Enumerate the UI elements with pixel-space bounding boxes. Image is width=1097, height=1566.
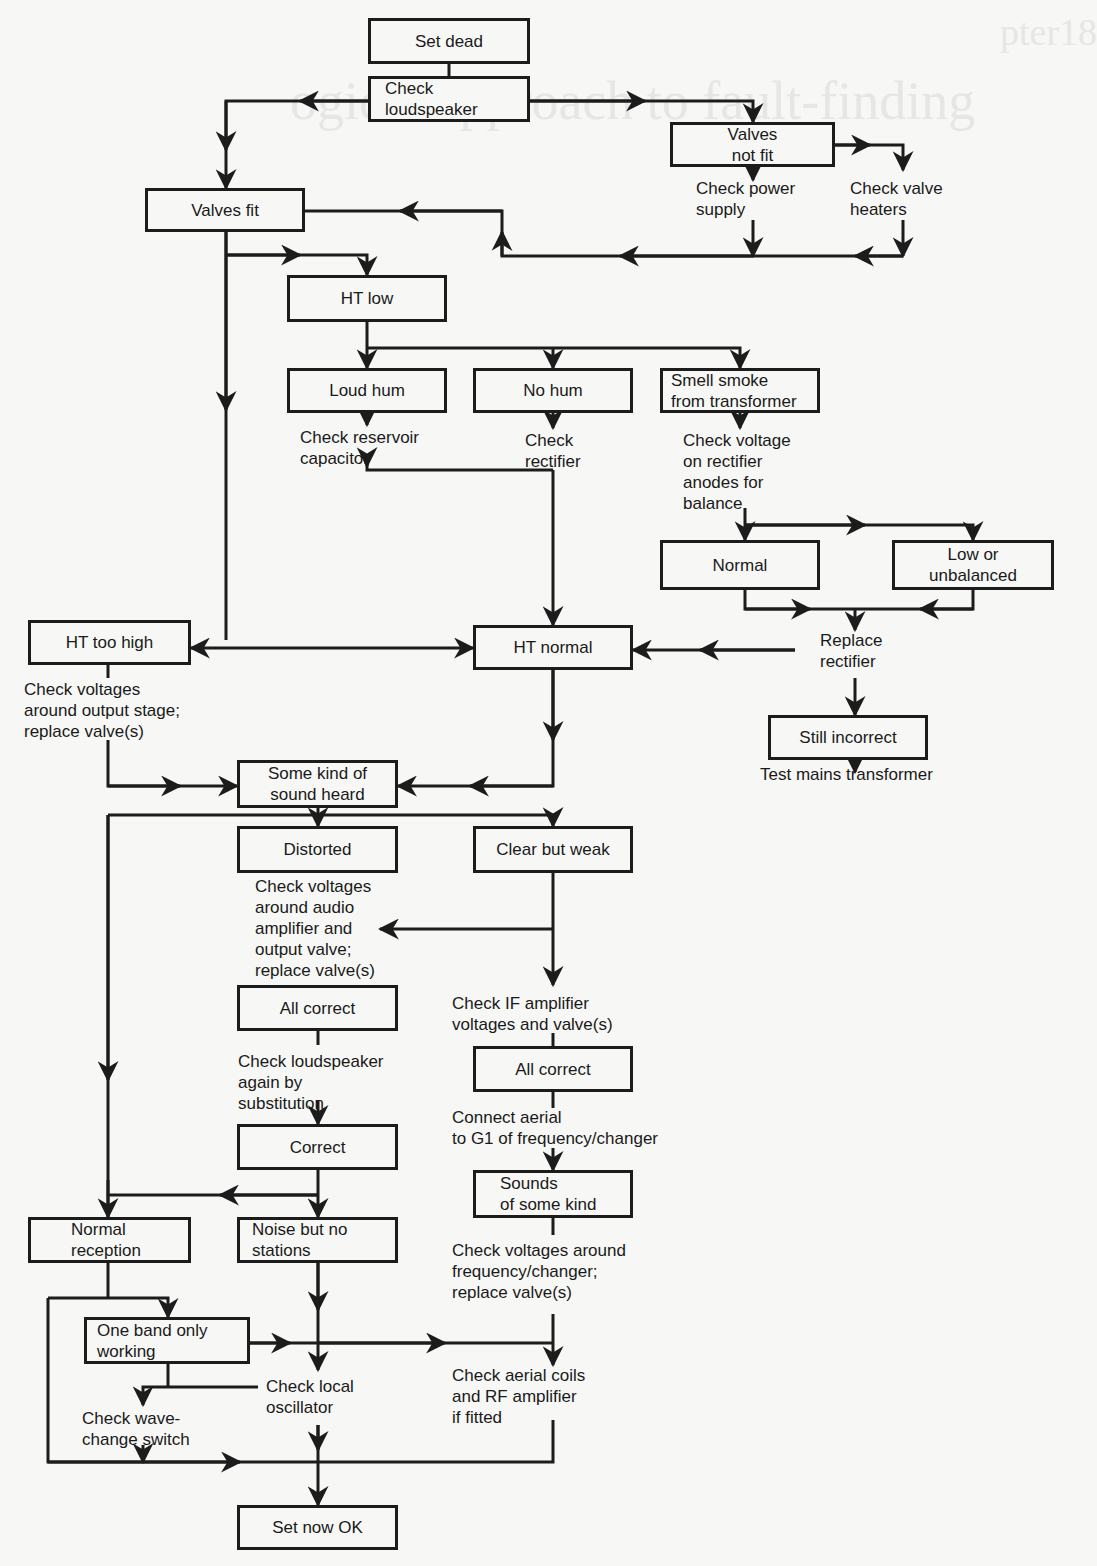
node-sounds-of-some-kind: Sounds of some kind (473, 1170, 633, 1218)
node-loud-hum: Loud hum (287, 368, 447, 413)
note-check-aerial-coils: Check aerial coils and RF amplifier if f… (452, 1365, 585, 1428)
node-correct: Correct (237, 1124, 398, 1170)
node-normal: Normal (660, 540, 820, 590)
node-normal-reception: Normal reception (28, 1217, 191, 1263)
node-one-band-only: One band only working (84, 1317, 250, 1364)
node-valves-not-fit: Valves not fit (670, 122, 835, 167)
node-set-dead: Set dead (368, 18, 530, 64)
note-replace-rectifier: Replace rectifier (820, 630, 882, 672)
node-all-correct-right: All correct (473, 1046, 633, 1092)
node-set-now-ok: Set now OK (237, 1505, 398, 1550)
note-check-output-stage: Check voltages around output stage; repl… (24, 679, 180, 742)
node-low-or-unbalanced: Low or unbalanced (892, 540, 1054, 590)
note-check-valve-heaters: Check valve heaters (850, 178, 943, 220)
node-noise-but-no-stations: Noise but no stations (237, 1217, 398, 1263)
node-smell-smoke: Smell smoke from transformer (660, 368, 820, 413)
note-check-wave-change-switch: Check wave- change switch (82, 1408, 190, 1450)
node-no-hum: No hum (473, 368, 633, 413)
note-check-rectifier: Check rectifier (525, 430, 581, 472)
note-check-local-oscillator: Check local oscillator (266, 1376, 354, 1418)
note-check-loudspeaker-again: Check loudspeaker again by substitution (238, 1051, 384, 1114)
node-some-kind-of-sound: Some kind of sound heard (237, 760, 398, 808)
note-check-frequency-changer: Check voltages around frequency/changer;… (452, 1240, 626, 1303)
note-connect-aerial: Connect aerial to G1 of frequency/change… (452, 1107, 658, 1149)
node-valves-fit: Valves fit (145, 188, 305, 232)
node-clear-but-weak: Clear but weak (473, 826, 633, 873)
node-still-incorrect: Still incorrect (768, 715, 928, 760)
node-all-correct-left: All correct (237, 985, 398, 1031)
node-distorted: Distorted (237, 826, 398, 873)
node-ht-low: HT low (287, 275, 447, 322)
note-check-if-amplifier: Check IF amplifier voltages and valve(s) (452, 993, 613, 1035)
note-check-audio-amplifier: Check voltages around audio amplifier an… (255, 876, 375, 981)
note-check-power-supply: Check power supply (696, 178, 795, 220)
node-ht-normal: HT normal (473, 625, 633, 670)
note-check-reservoir: Check reservoir capacitor (300, 427, 419, 469)
node-ht-too-high: HT too high (28, 620, 191, 665)
note-check-voltage-anodes: Check voltage on rectifier anodes for ba… (683, 430, 791, 514)
node-check-loudspeaker: Check loudspeaker (368, 76, 530, 122)
note-test-mains-transformer: Test mains transformer (760, 764, 933, 785)
